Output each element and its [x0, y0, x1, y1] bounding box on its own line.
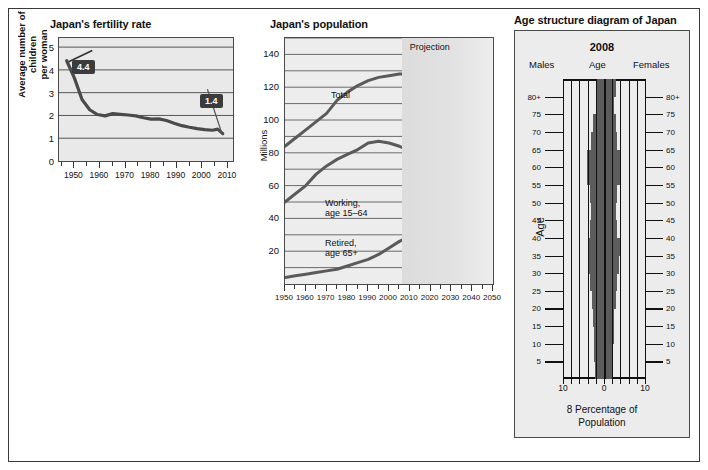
fertility-x-tick-label: 2000	[192, 170, 211, 180]
pyramid-x-tick-label: 10	[640, 383, 649, 393]
pyramid-age-rule-right	[645, 308, 663, 309]
pyramid-age-label-left: 35	[532, 251, 541, 260]
pyramid-bar-male	[591, 132, 604, 150]
fertility-chart-title: Japan's fertility rate	[50, 18, 151, 30]
pyramid-age-label-right: 25	[666, 286, 675, 295]
population-x-tick	[492, 285, 493, 291]
pyramid-age-label-right: 65	[666, 145, 675, 154]
pyramid-gridline	[596, 79, 597, 379]
pyramid-age-label-left: 45	[532, 216, 541, 225]
fertility-y-tick: 0	[49, 156, 54, 167]
pyramid-bar-male	[590, 273, 604, 291]
pyramid-bar-male	[597, 79, 604, 97]
population-x-tick	[461, 285, 462, 289]
pyramid-plot-area	[563, 79, 645, 379]
population-x-tick-label: 1960	[296, 293, 314, 302]
pyramid-year-label: 2008	[515, 41, 689, 53]
pyramid-age-label-right: 45	[666, 216, 675, 225]
pyramid-age-label-right: 40	[666, 233, 675, 242]
population-chart-title: Japan's population	[270, 18, 368, 30]
pyramid-gridline	[571, 79, 572, 379]
pyramid-x-tick-label: 10	[558, 383, 567, 393]
pyramid-bar-female	[604, 291, 616, 309]
pyramid-age-label-left: 65	[532, 145, 541, 154]
fertility-x-tick	[189, 162, 190, 166]
fertility-x-tick-label: 1970	[115, 170, 134, 180]
pyramid-age-label-left: 10	[532, 339, 541, 348]
population-x-tick	[378, 285, 379, 289]
population-x-tick	[336, 285, 337, 289]
population-x-tick	[440, 285, 441, 289]
pyramid-age-rule-right	[645, 185, 663, 186]
pyramid-age-rule-left	[545, 361, 563, 362]
fertility-x-tick	[112, 162, 113, 166]
projection-shading	[402, 38, 494, 284]
fertility-y-tick: 5	[49, 42, 54, 53]
population-x-tick	[409, 285, 410, 291]
population-plot-area: Projection TotalWorking,age 15–64Retired…	[284, 37, 494, 285]
fertility-y-tick: 2	[49, 110, 54, 121]
population-y-tick: 20	[268, 245, 279, 256]
pyramid-age-rule-left	[545, 256, 563, 257]
pyramid-age-rule-left	[545, 185, 563, 186]
population-x-tick-labels: 1950196019701980199020002010202020302040…	[284, 293, 494, 305]
pyramid-bar-female	[604, 114, 616, 132]
pyramid-age-axis-title: Age	[534, 200, 546, 254]
fertility-x-tick	[61, 162, 62, 166]
pyramid-age-rule-right	[645, 273, 663, 274]
fertility-x-tick	[150, 162, 151, 168]
pyramid-bar-male	[591, 203, 604, 221]
population-x-tick	[315, 285, 316, 289]
population-x-tick-label: 2020	[421, 293, 439, 302]
pyramid-age-rule-left	[545, 203, 563, 204]
pyramid-age-label-right: 35	[666, 251, 675, 260]
pyramid-age-rule-right	[645, 203, 663, 204]
population-x-tick	[346, 285, 347, 291]
pyramid-age-label-right: 70	[666, 127, 675, 136]
fertility-y-tick: 1	[49, 133, 54, 144]
pyramid-age-label-left: 70	[532, 127, 541, 136]
pyramid-age-label-right: 55	[666, 180, 675, 189]
pyramid-x-tick	[645, 379, 646, 384]
population-x-tick-label: 2030	[441, 293, 459, 302]
pyramid-age-label-right: 5	[666, 357, 670, 366]
population-x-tick	[430, 285, 431, 291]
pyramid-x-tick	[629, 379, 630, 384]
pyramid-x-tick	[620, 379, 621, 384]
population-x-tick	[357, 285, 358, 289]
fertility-x-tick-label: 1980	[141, 170, 160, 180]
age-structure-title: Age structure diagram of Japan	[514, 14, 677, 26]
fertility-x-ticks	[58, 162, 234, 170]
pyramid-x-tick	[588, 379, 589, 384]
fertility-x-tick	[73, 162, 74, 168]
pyramid-gridline	[579, 79, 580, 379]
fertility-x-tick	[125, 162, 126, 168]
pyramid-age-label-left: 25	[532, 286, 541, 295]
population-x-tick-label: 2040	[462, 293, 480, 302]
fertility-x-tick-label: 1960	[89, 170, 108, 180]
fertility-x-tick	[201, 162, 202, 168]
pyramid-bar-female	[604, 185, 617, 203]
pyramid-age-rule-left	[545, 308, 563, 309]
fertility-x-tick	[163, 162, 164, 166]
population-y-tick-labels: 20406080100120140	[258, 37, 282, 285]
pyramid-age-rule-right	[645, 344, 663, 345]
pyramid-x-tick	[596, 379, 597, 384]
population-y-tick: 80	[268, 146, 279, 157]
pyramid-age-rule-right	[645, 256, 663, 257]
population-x-tick	[294, 285, 295, 289]
pyramid-age-rule-left	[545, 167, 563, 168]
fertility-y-tick: 3	[49, 87, 54, 98]
pyramid-age-label-right: 15	[666, 322, 675, 331]
fertility-x-tick-labels: 1950196019701980199020002010	[58, 170, 234, 182]
population-x-tick-label: 2050	[483, 293, 501, 302]
pyramid-gridline	[629, 79, 630, 379]
fertility-x-tick	[137, 162, 138, 166]
pyramid-age-rule-right	[645, 150, 663, 151]
pyramid-bar-female	[604, 203, 616, 221]
pyramid-x-tick	[612, 379, 613, 384]
pyramid-bar-female	[604, 79, 616, 97]
fertility-x-tick	[86, 162, 87, 166]
pyramid-age-label-left: 50	[532, 198, 541, 207]
population-x-ticks	[284, 285, 494, 293]
